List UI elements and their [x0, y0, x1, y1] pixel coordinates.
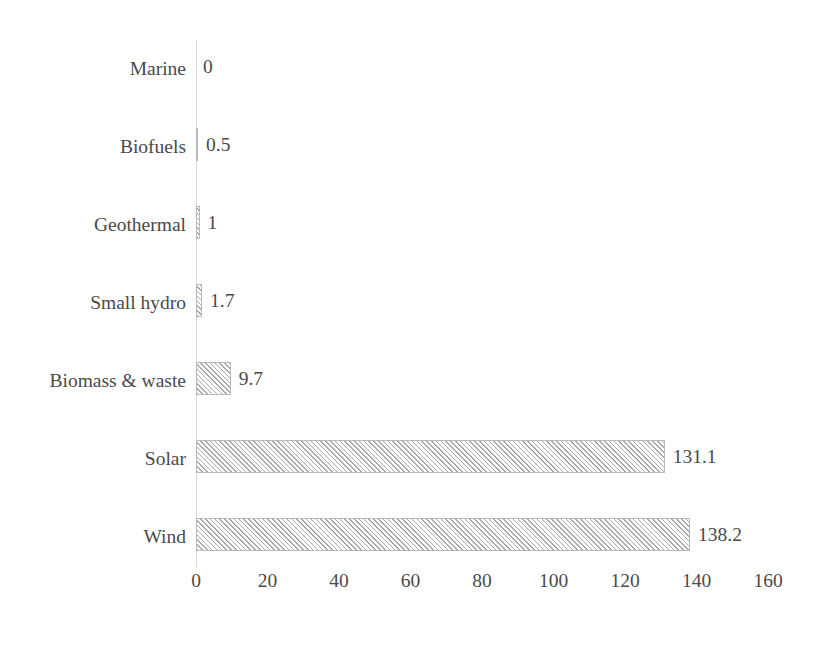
x-axis-tick-label: 20 [258, 571, 278, 591]
bar-group: 1.7 [196, 284, 234, 317]
category-label: Solar [0, 449, 186, 469]
bar [196, 362, 231, 395]
bar-value-label: 138.2 [698, 525, 742, 545]
x-axis: 020406080100120140160 [196, 571, 768, 601]
x-axis-tick-label: 100 [539, 571, 568, 591]
x-axis-tick-label: 60 [401, 571, 421, 591]
bar-value-label: 131.1 [673, 447, 717, 467]
category-label: Geothermal [0, 215, 186, 235]
bar-row: Marine0 [196, 40, 768, 118]
category-label: Biomass & waste [0, 371, 186, 391]
plot-area: Marine0Biofuels0.5Geothermal1Small hydro… [196, 40, 768, 560]
bar-row: Biofuels0.5 [196, 118, 768, 196]
bar-row: Biomass & waste9.7 [196, 352, 768, 430]
bar-group: 131.1 [196, 440, 717, 473]
bar-row: Geothermal1 [196, 196, 768, 274]
bar-row: Small hydro1.7 [196, 274, 768, 352]
bar-value-label: 1.7 [210, 291, 234, 311]
bar-chart: Marine0Biofuels0.5Geothermal1Small hydro… [0, 0, 818, 647]
bar-row: Solar131.1 [196, 430, 768, 508]
bar-value-label: 0 [203, 57, 213, 77]
category-label: Wind [0, 527, 186, 547]
bar [196, 518, 690, 551]
bar-group: 0.5 [196, 128, 230, 161]
x-axis-tick-label: 0 [191, 571, 201, 591]
bar-group: 9.7 [196, 362, 263, 395]
bar-group: 138.2 [196, 518, 742, 551]
bar [196, 128, 198, 161]
x-axis-tick-label: 140 [682, 571, 711, 591]
x-axis-tick-label: 80 [472, 571, 492, 591]
category-label: Biofuels [0, 137, 186, 157]
bar [196, 284, 202, 317]
category-label: Marine [0, 59, 186, 79]
bar-value-label: 0.5 [206, 135, 230, 155]
bar [196, 206, 200, 239]
bar-value-label: 9.7 [239, 369, 263, 389]
bar-value-label: 1 [208, 213, 218, 233]
x-axis-tick-label: 120 [610, 571, 639, 591]
x-axis-tick-label: 160 [753, 571, 782, 591]
category-label: Small hydro [0, 293, 186, 313]
x-axis-tick-label: 40 [329, 571, 349, 591]
bar-group: 1 [196, 206, 217, 239]
bar-group: 0 [196, 50, 213, 83]
bar [196, 440, 665, 473]
